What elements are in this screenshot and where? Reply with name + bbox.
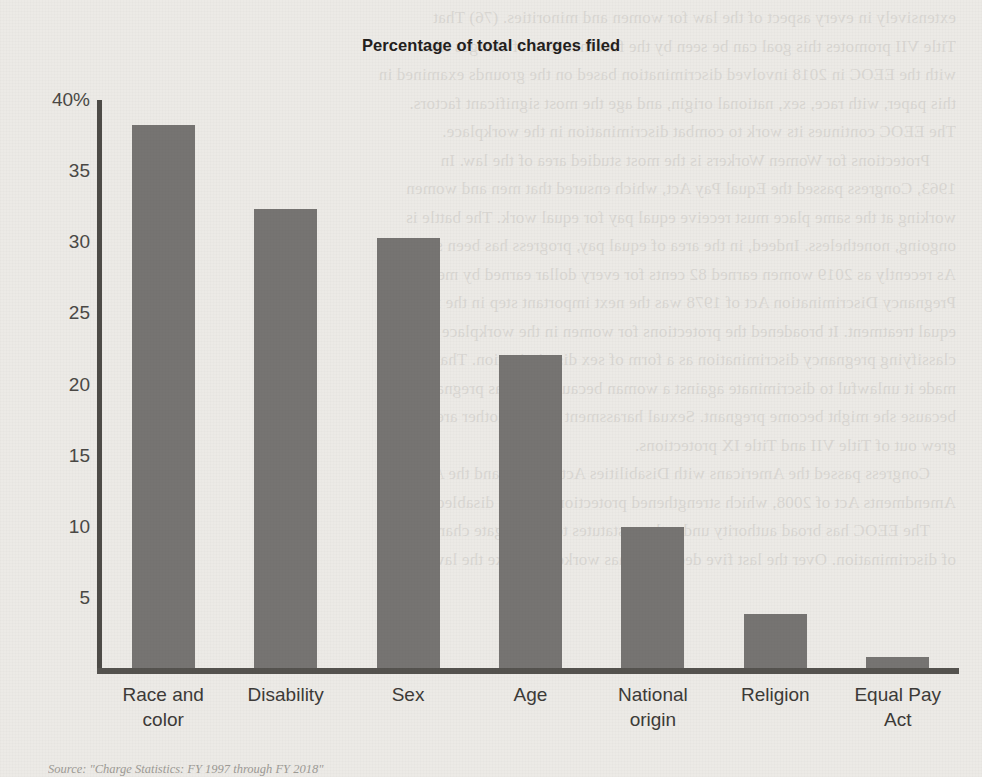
y-axis-tick-25: 25 [69,302,90,324]
x-axis-label: Disability [224,682,346,732]
bar-slot [224,100,346,668]
y-axis-tick-35: 35 [69,160,90,182]
bar-slot [102,100,224,668]
y-axis-tick-labels: 510152025303540% [42,100,90,674]
bar [132,125,195,668]
y-axis-tick-5: 5 [79,587,90,609]
x-axis-category-labels: Race andcolorDisabilitySexAgeNationalori… [102,682,959,732]
source-note: Source: "Charge Statistics: FY 1997 thro… [48,762,942,777]
y-axis-tick-10: 10 [69,516,90,538]
x-axis-label: Nationalorigin [592,682,714,732]
bar [866,657,929,668]
y-axis-tick-30: 30 [69,231,90,253]
x-axis-label-line: Act [837,707,959,732]
bar-slot [714,100,836,668]
plot-area: 510152025303540% [97,100,959,674]
bar-series [102,100,959,668]
y-axis-tick-15: 15 [69,445,90,467]
bar [377,238,440,668]
x-axis-label: Sex [347,682,469,732]
y-axis-tick-40: 40% [52,89,90,111]
bar-slot [469,100,591,668]
x-axis-line [97,668,959,674]
x-axis-label-line: National [592,682,714,707]
bar [499,355,562,668]
x-axis-label-line: Disability [224,682,346,707]
x-axis-label-line: Sex [347,682,469,707]
chart-figure: Percentage of total charges filed 510152… [0,0,982,777]
chart-title: Percentage of total charges filed [0,36,982,55]
bar [254,209,317,668]
bar [621,527,684,668]
bar-slot [347,100,469,668]
x-axis-label: Religion [714,682,836,732]
x-axis-label: Race andcolor [102,682,224,732]
x-axis-label-line: Age [469,682,591,707]
y-axis-tick-20: 20 [69,374,90,396]
x-axis-label-line: Equal Pay [837,682,959,707]
x-axis-label-line: color [102,707,224,732]
x-axis-label: Equal PayAct [837,682,959,732]
x-axis-label-line: Race and [102,682,224,707]
x-axis-label: Age [469,682,591,732]
x-axis-label-line: Religion [714,682,836,707]
bar-slot [592,100,714,668]
x-axis-label-line: origin [592,707,714,732]
bar-slot [837,100,959,668]
bar [744,614,807,668]
